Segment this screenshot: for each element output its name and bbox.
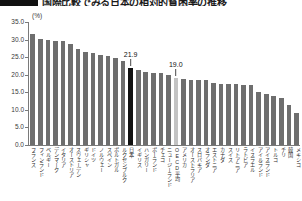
bar [106,56,111,145]
bar [264,94,269,145]
chart-title-strip: 国際比較でみる日本の相対的貧困率の推移 [0,0,302,6]
bar-slot [29,22,37,145]
x-axis-label: イタリア [60,147,65,167]
x-axis-label-slot: アメリカ [180,147,188,201]
bar [226,84,231,145]
x-axis-label: リトアニア [234,147,239,172]
x-axis-label-slot: オーストラリア [188,147,196,201]
bar-slot [195,22,203,145]
value-callout-pointer [175,69,176,76]
bar [271,96,276,145]
bar [113,58,118,145]
x-axis-label: ニュージーランド [166,147,171,187]
bar [38,39,43,145]
y-axis-tick [25,92,28,93]
x-axis-label: ポルトガル [113,147,118,172]
x-axis-label: アイルランド [257,147,262,177]
x-axis-label: オーストラリア [189,147,194,182]
x-axis-label: オーストリア [68,147,73,177]
bar [121,61,126,145]
bar [241,85,246,145]
plot-area: (%) 0.05.010.015.020.025.030.035.0 21.91… [28,22,300,145]
x-axis-label-slot: イスラエル [248,147,256,201]
bar [204,80,209,145]
x-axis-label-slot: ドイツ [90,147,98,201]
value-callout: 19.0 [169,61,183,76]
bar-slot [247,22,255,145]
x-axis-label-slot: アイルランド [256,147,264,201]
x-axis-label-slot: 日本 [127,147,135,201]
x-axis-label: イスラエル [249,147,254,172]
y-axis-tick [25,145,28,146]
bar-slot [240,22,248,145]
bar-slot [180,22,188,145]
bar [128,68,133,145]
x-axis-label-slot: ラトビア [241,147,249,201]
x-axis-label: カナダ [219,147,224,162]
y-axis-tick-label: 35.0 [11,19,24,26]
bar-slot [104,22,112,145]
x-axis-label: スロバキア [196,147,201,172]
x-axis-line [28,145,300,146]
x-axis-labels: フランスフィンランドベルギーデンマークイタリアオーストリアスウェーデンギリシャド… [29,147,301,201]
x-axis-label: スウェーデン [75,147,80,177]
bar-slot [67,22,75,145]
y-axis-tick-label: 30.0 [11,36,24,43]
x-axis-label-slot: イタリア [59,147,67,201]
bar [61,41,66,145]
bar-slot [293,22,301,145]
x-axis-label: スペイン [106,147,111,167]
bar [53,41,58,145]
y-axis-tick-label: 0.0 [15,142,24,149]
title-marker-icon [0,0,38,6]
x-axis-label-slot: エストニア [211,147,219,201]
x-axis-label-slot: ポーランド [150,147,158,201]
bar [256,92,261,145]
bar [211,83,216,145]
x-axis-label-slot: ニュージーランド [165,147,173,201]
x-axis-label: オランダ [204,147,209,167]
bar [98,55,103,145]
bar [279,98,284,145]
x-axis-label: アメリカ [181,147,186,167]
x-axis-label: ノルウェー [98,147,103,172]
y-axis-tick-label: 25.0 [11,54,24,61]
x-axis-label-slot: メキシコ [294,147,302,201]
bar-slot [82,22,90,145]
value-callout-label: 19.0 [169,61,183,68]
bar-slot [112,22,120,145]
y-axis-tick-label: 10.0 [11,107,24,114]
bar [151,73,156,145]
x-axis-label: エストニア [212,147,217,172]
bar-slot [270,22,278,145]
value-callout: 21.9 [124,51,138,66]
bar-slot [150,22,158,145]
bar-slot [59,22,67,145]
x-axis-label-slot: チリ [279,147,287,201]
x-axis-label: スイス [227,147,232,162]
x-axis-label-slot: OECD平均 [173,147,181,201]
bar [68,44,73,145]
y-axis-tick-label: 20.0 [11,71,24,78]
x-axis-label-slot: イギリス [135,147,143,201]
x-axis-label: トルコ [272,147,277,162]
bar-slot [202,22,210,145]
bar-slot [44,22,52,145]
y-axis-tick [25,75,28,76]
x-axis-label-slot: オランダ [203,147,211,201]
bar-slot [52,22,60,145]
bar [287,105,292,145]
x-axis-label-slot: ポルトガル [112,147,120,201]
y-axis-tick-label: 5.0 [15,124,24,131]
bar-slot [157,22,165,145]
bar-slot [187,22,195,145]
x-axis-label-slot: チェコ [158,147,166,201]
y-axis-tick [25,40,28,41]
x-axis-label: デンマーク [53,147,58,172]
x-axis-label: ポーランド [151,147,156,172]
bar [166,75,171,145]
bar-slot [262,22,270,145]
bar [174,78,179,145]
bar-slot [217,22,225,145]
x-axis-label: ハンガリー [144,147,149,172]
